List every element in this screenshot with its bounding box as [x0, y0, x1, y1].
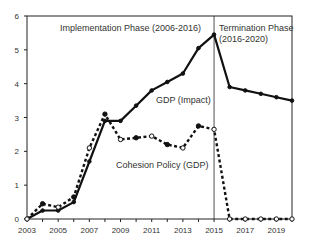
data-point-marker — [243, 217, 247, 221]
data-point-marker — [118, 137, 122, 141]
label-cohesion-policy: Cohesion Policy (GDP) — [116, 160, 209, 170]
y-tick-label: 3 — [15, 114, 20, 123]
y-tick-label: 1 — [15, 181, 20, 190]
annotation-termination-years: (2016-2020) — [219, 34, 268, 44]
series-layer — [25, 33, 294, 221]
x-tick-label: 2017 — [236, 226, 254, 235]
data-point-marker — [56, 205, 60, 209]
data-point-marker — [119, 119, 123, 123]
y-tick-label: 5 — [15, 46, 20, 55]
data-point-marker — [150, 89, 154, 93]
x-tick-label: 2015 — [205, 226, 223, 235]
data-point-marker — [275, 95, 279, 99]
axes: 0123456200320052007200920112013201520172… — [15, 12, 292, 235]
data-point-marker — [103, 112, 107, 116]
data-point-marker — [72, 200, 76, 204]
data-point-marker — [87, 146, 91, 150]
annotation-implementation-phase: Implementation Phase (2006-2016) — [60, 23, 201, 33]
data-point-marker — [259, 92, 263, 96]
annotation-termination-phase: Termination Phase — [219, 23, 294, 33]
x-tick-label: 2019 — [268, 226, 286, 235]
data-point-marker — [274, 217, 278, 221]
y-tick-label: 0 — [15, 215, 20, 224]
data-point-marker — [290, 217, 294, 221]
data-point-marker — [181, 72, 185, 76]
data-point-marker — [134, 136, 138, 140]
chart-canvas: 0123456200320052007200920112013201520172… — [0, 0, 310, 247]
data-point-marker — [243, 89, 247, 93]
data-point-marker — [40, 202, 44, 206]
data-point-marker — [25, 217, 29, 221]
gdp-impact-line — [27, 35, 292, 219]
x-tick-label: 2007 — [80, 226, 98, 235]
plot-frame — [27, 16, 292, 219]
x-tick-label: 2005 — [49, 226, 67, 235]
x-tick-label: 2013 — [174, 226, 192, 235]
data-point-marker — [165, 142, 169, 146]
data-point-marker — [72, 195, 76, 199]
data-point-marker — [41, 209, 45, 213]
x-tick-label: 2003 — [18, 226, 36, 235]
y-tick-label: 4 — [15, 80, 20, 89]
x-tick-label: 2011 — [143, 226, 161, 235]
data-point-marker — [290, 99, 294, 103]
data-point-marker — [227, 217, 231, 221]
data-point-marker — [212, 33, 216, 37]
data-point-marker — [150, 134, 154, 138]
data-point-marker — [196, 124, 200, 128]
data-point-marker — [259, 217, 263, 221]
data-point-marker — [88, 160, 92, 164]
data-point-marker — [197, 46, 201, 50]
y-tick-label: 6 — [15, 12, 20, 21]
line-chart: 0123456200320052007200920112013201520172… — [0, 0, 310, 247]
y-tick-label: 2 — [15, 147, 20, 156]
label-gdp-impact: GDP (Impact) — [156, 95, 211, 105]
data-point-marker — [134, 104, 138, 108]
data-point-marker — [181, 146, 185, 150]
x-tick-label: 2009 — [112, 226, 130, 235]
data-point-marker — [228, 85, 232, 89]
data-point-marker — [165, 80, 169, 84]
data-point-marker — [212, 127, 216, 131]
